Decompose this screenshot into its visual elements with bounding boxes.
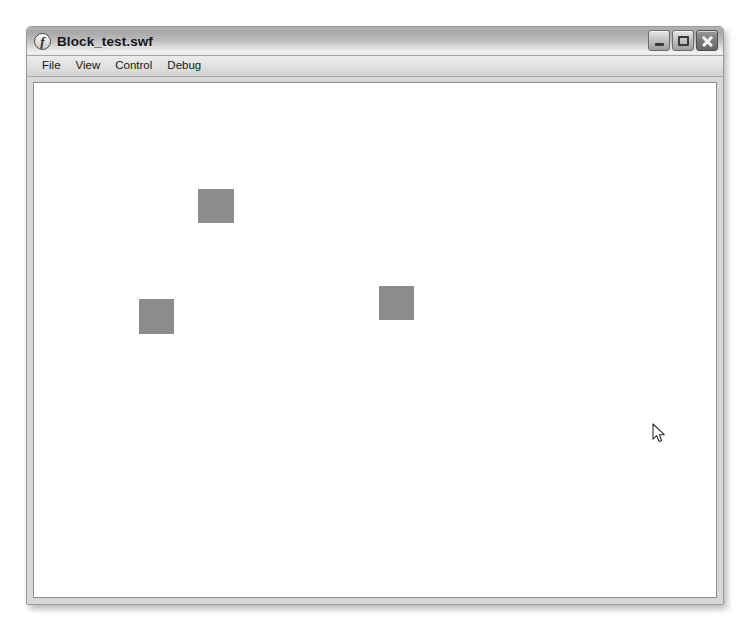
close-icon [701, 35, 713, 47]
block-left[interactable] [139, 299, 174, 334]
maximize-icon [678, 36, 689, 46]
block-top[interactable] [198, 189, 234, 223]
flash-player-window: f Block_test.swf File View Control Debug [26, 26, 724, 605]
close-button[interactable] [696, 30, 718, 51]
menu-item-file[interactable]: File [35, 58, 69, 74]
window-controls [648, 30, 718, 51]
arrow-cursor [652, 423, 667, 445]
menu-item-view[interactable]: View [69, 58, 109, 74]
stage-container [27, 77, 723, 604]
window-title: Block_test.swf [57, 34, 153, 49]
maximize-button[interactable] [672, 30, 694, 51]
title-bar[interactable]: f Block_test.swf [27, 27, 723, 56]
minimize-icon [655, 43, 664, 46]
menu-bar: File View Control Debug [27, 56, 723, 77]
flash-icon-letter: f [40, 34, 44, 47]
block-right[interactable] [379, 286, 414, 320]
flash-stage[interactable] [33, 82, 717, 598]
flash-player-icon: f [34, 33, 51, 50]
minimize-button[interactable] [648, 30, 670, 51]
menu-item-control[interactable]: Control [108, 58, 160, 74]
menu-item-debug[interactable]: Debug [160, 58, 209, 74]
